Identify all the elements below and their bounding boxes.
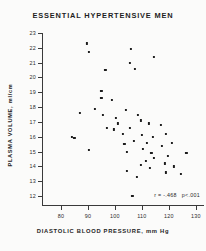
data-point [166, 155, 168, 157]
y-tick [38, 92, 42, 93]
y-tick [38, 137, 42, 138]
y-tick [38, 196, 42, 197]
x-tick-label: 120 [164, 213, 174, 219]
y-tick-label: 17 [30, 119, 36, 125]
data-point [180, 173, 182, 175]
y-tick-label: 14 [30, 163, 36, 169]
data-point [135, 176, 137, 178]
data-point [153, 156, 155, 158]
data-point [185, 152, 187, 154]
data-point [88, 51, 90, 53]
x-tick-label: 90 [85, 213, 91, 219]
data-point [79, 112, 81, 114]
y-tick [38, 48, 42, 49]
pvalue: p<.001 [182, 192, 200, 198]
data-point [122, 133, 124, 135]
data-point [129, 62, 131, 64]
data-point [146, 142, 148, 144]
y-tick-label: 12 [30, 193, 36, 199]
data-point [126, 151, 128, 153]
data-point [102, 113, 104, 115]
data-point [100, 90, 102, 92]
data-point [165, 171, 167, 173]
data-point [131, 195, 133, 197]
y-tick-label: 22 [30, 45, 36, 51]
data-point [171, 142, 173, 144]
plot-area: 121314151617181920212223 809010011012013… [42, 33, 204, 206]
data-point [152, 136, 154, 138]
data-point [100, 97, 102, 99]
data-point [88, 149, 90, 151]
y-tick-label: 20 [30, 74, 36, 80]
y-tick [38, 77, 42, 78]
data-point [125, 109, 127, 111]
data-point [117, 122, 119, 124]
y-tick-label: 13 [30, 178, 36, 184]
x-tick [142, 206, 143, 210]
y-tick [38, 63, 42, 64]
scatter-plot-figure: ESSENTIAL HYPERTENSIVE MEN 1213141516171… [0, 0, 206, 251]
y-tick [38, 33, 42, 34]
data-point [111, 99, 113, 101]
chart-title: ESSENTIAL HYPERTENSIVE MEN [0, 11, 206, 20]
data-point [137, 113, 139, 115]
data-point [139, 164, 141, 166]
y-axis-line [42, 33, 43, 206]
data-point [141, 134, 143, 136]
y-tick [38, 152, 42, 153]
data-point [129, 127, 131, 129]
y-tick [38, 122, 42, 123]
data-point [153, 56, 155, 58]
data-point [165, 133, 167, 135]
data-point [148, 122, 150, 124]
data-point [149, 167, 151, 169]
data-point [115, 116, 117, 118]
x-axis-line [42, 205, 204, 206]
x-tick [196, 206, 197, 210]
data-point [164, 162, 166, 164]
data-point [126, 170, 128, 172]
data-point [104, 69, 106, 71]
data-point [134, 67, 136, 69]
data-point [173, 165, 175, 167]
x-tick-label: 110 [137, 213, 146, 219]
data-point [130, 48, 132, 50]
y-tick-label: 23 [30, 30, 36, 36]
data-point [160, 124, 162, 126]
correlation-value: r = -.468 [154, 192, 177, 198]
data-point [123, 143, 125, 145]
data-point [112, 128, 114, 130]
data-point [142, 148, 144, 150]
data-point [73, 137, 75, 139]
x-axis-label: DIASTOLIC BLOOD PRESSURE, mm Hg [0, 228, 206, 234]
x-tick [88, 206, 89, 210]
data-point [133, 140, 135, 142]
data-point [150, 152, 152, 154]
y-axis-label: PLASMA VOLUME, ml/cm [7, 83, 13, 166]
statistics-annotation: r = -.468p<.001 [154, 192, 200, 198]
y-tick [38, 166, 42, 167]
x-tick-label: 130 [191, 213, 201, 219]
y-tick-label: 15 [30, 149, 36, 155]
data-point [145, 159, 147, 161]
y-tick-label: 16 [30, 134, 36, 140]
y-tick-label: 18 [30, 104, 36, 110]
x-tick-label: 80 [58, 213, 64, 219]
data-point [139, 119, 141, 121]
x-tick [169, 206, 170, 210]
y-tick [38, 107, 42, 108]
x-tick-label: 100 [110, 213, 120, 219]
x-tick [115, 206, 116, 210]
data-point [161, 145, 163, 147]
data-point [94, 108, 96, 110]
data-point [106, 127, 108, 129]
x-tick [61, 206, 62, 210]
y-tick-label: 19 [30, 89, 36, 95]
y-tick [38, 181, 42, 182]
data-point [85, 42, 87, 44]
y-tick-label: 21 [30, 60, 36, 66]
